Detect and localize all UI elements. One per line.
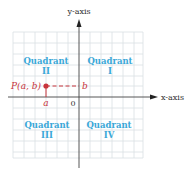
y-axis — [77, 19, 82, 168]
arrow-up-icon — [77, 19, 82, 27]
b-label: b — [82, 81, 88, 91]
quadrant-i: Quadrant I — [87, 56, 132, 76]
quadrant-i-numeral: I — [108, 66, 112, 76]
grid — [13, 32, 143, 158]
quadrant-iii-numeral: III — [41, 130, 53, 140]
point-marker-icon — [43, 83, 48, 88]
coordinate-plane: y-axis x-axis 0 Quadrant II Quadrant I Q… — [0, 0, 189, 173]
y-axis-label: y-axis — [66, 7, 90, 16]
quadrant-iii-word: Quadrant — [24, 120, 69, 130]
x-axis — [8, 95, 158, 100]
quadrant-ii: Quadrant II — [23, 56, 68, 76]
quadrant-ii-word: Quadrant — [23, 56, 68, 66]
x-axis-label: x-axis — [161, 93, 184, 102]
point-label: P(a, b) — [10, 81, 41, 91]
quadrant-ii-numeral: II — [42, 66, 50, 76]
quadrant-iv-numeral: IV — [104, 130, 115, 140]
a-label: a — [43, 98, 48, 108]
quadrant-iv-word: Quadrant — [86, 120, 131, 130]
arrow-right-icon — [150, 95, 158, 100]
point-p: P(a, b) b a — [10, 81, 88, 108]
origin-label: 0 — [70, 99, 75, 108]
quadrant-i-word: Quadrant — [87, 56, 132, 66]
